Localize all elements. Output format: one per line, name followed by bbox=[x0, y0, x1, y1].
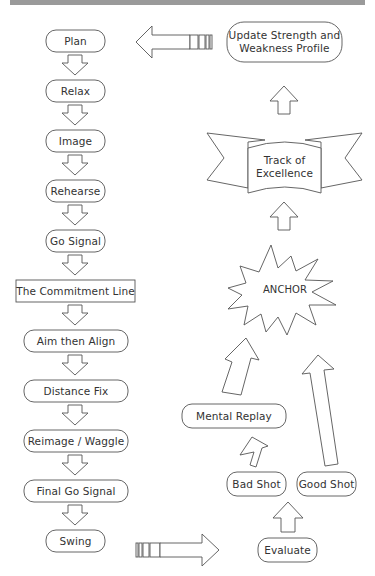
plan-label: Plan bbox=[46, 30, 105, 52]
rehearse-label: Rehearse bbox=[46, 180, 105, 202]
reimage-waggle-label: Reimage / Waggle bbox=[24, 430, 128, 452]
image-label: Image bbox=[46, 130, 105, 152]
bad-shot-label: Bad Shot bbox=[227, 472, 286, 496]
up-arrow-icon bbox=[270, 86, 298, 114]
up-arrow-icon bbox=[302, 355, 338, 466]
aim-then-align-label: Aim then Align bbox=[24, 330, 128, 352]
track-line1: Track of bbox=[264, 154, 306, 167]
distance-fix-label: Distance Fix bbox=[24, 380, 128, 402]
track-line2: Excellence bbox=[256, 167, 313, 180]
relax-label: Relax bbox=[46, 80, 105, 102]
up-arrow-icon bbox=[270, 202, 298, 230]
update-profile-label: Update Strength and Weakness Profile bbox=[227, 22, 342, 62]
return-arrow-left-icon bbox=[136, 26, 212, 58]
update-profile-line2: Weakness Profile bbox=[239, 42, 329, 55]
up-arrow-icon bbox=[240, 437, 268, 467]
go-signal-label: Go Signal bbox=[46, 230, 105, 252]
track-of-excellence-label: Track of Excellence bbox=[248, 145, 321, 189]
evaluate-label: Evaluate bbox=[258, 538, 317, 562]
commitment-line-label: The Commitment Line bbox=[16, 280, 135, 302]
anchor-label: ANCHOR bbox=[255, 282, 315, 296]
update-profile-line1: Update Strength and bbox=[229, 29, 341, 42]
up-arrow-icon bbox=[222, 338, 259, 395]
swing-label: Swing bbox=[46, 530, 105, 552]
mental-replay-label: Mental Replay bbox=[182, 404, 286, 428]
swing-to-evaluate-arrow-icon bbox=[136, 534, 219, 566]
up-arrow-icon bbox=[273, 502, 303, 532]
final-go-signal-label: Final Go Signal bbox=[24, 480, 128, 502]
good-shot-label: Good Shot bbox=[297, 472, 356, 496]
